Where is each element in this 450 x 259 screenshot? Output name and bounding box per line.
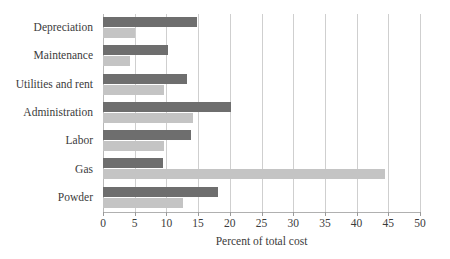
x-tick-label: 35 [319, 218, 331, 230]
bar-light [103, 28, 135, 38]
bar-light [103, 169, 385, 179]
tick-mark-50 [420, 212, 421, 216]
plot-area [103, 14, 420, 212]
bar-chart: DepreciationMaintenanceUtilities and ren… [0, 0, 450, 259]
bar-group [103, 42, 420, 70]
bar-light [103, 198, 183, 208]
tick-mark-5 [135, 212, 136, 216]
y-axis-label: Maintenance [0, 50, 98, 62]
x-tick-label: 40 [351, 218, 363, 230]
bar-group [103, 14, 420, 42]
y-axis-labels: DepreciationMaintenanceUtilities and ren… [0, 14, 98, 212]
tick-mark-25 [262, 212, 263, 216]
x-tick-label: 45 [383, 218, 395, 230]
y-axis-label: Administration [0, 107, 98, 119]
tick-mark-10 [166, 212, 167, 216]
bar-light [103, 141, 164, 151]
bar-light [103, 56, 130, 66]
x-tick-label: 20 [224, 218, 236, 230]
tick-mark-40 [357, 212, 358, 216]
tick-mark-45 [388, 212, 389, 216]
x-axis-tick-labels: 05101520253035404550 [0, 218, 450, 234]
bar-group [103, 155, 420, 183]
x-axis-title: Percent of total cost [103, 236, 420, 248]
gridline-50 [420, 14, 421, 212]
bar-dark [103, 158, 163, 168]
bar-dark [103, 45, 168, 55]
bar-light [103, 85, 164, 95]
bar-group [103, 184, 420, 212]
x-tick-label: 50 [414, 218, 426, 230]
x-tick-label: 25 [256, 218, 268, 230]
y-axis-label: Utilities and rent [0, 79, 98, 91]
tick-mark-0 [103, 212, 104, 216]
y-axis-label: Depreciation [0, 22, 98, 34]
x-tick-label: 30 [287, 218, 299, 230]
bar-dark [103, 74, 187, 84]
bar-group [103, 99, 420, 127]
tick-mark-35 [325, 212, 326, 216]
x-tick-label: 10 [161, 218, 173, 230]
bar-dark [103, 17, 197, 27]
bar-group [103, 127, 420, 155]
x-tick-label: 5 [132, 218, 138, 230]
tick-mark-20 [230, 212, 231, 216]
y-axis-label: Gas [0, 164, 98, 176]
y-axis-label: Powder [0, 192, 98, 204]
y-axis-label: Labor [0, 135, 98, 147]
bar-dark [103, 187, 218, 197]
x-tick-label: 0 [100, 218, 106, 230]
x-tick-label: 15 [192, 218, 204, 230]
bar-group [103, 71, 420, 99]
bar-light [103, 113, 193, 123]
tick-mark-30 [293, 212, 294, 216]
tick-mark-15 [198, 212, 199, 216]
bar-dark [103, 130, 191, 140]
bar-dark [103, 102, 231, 112]
